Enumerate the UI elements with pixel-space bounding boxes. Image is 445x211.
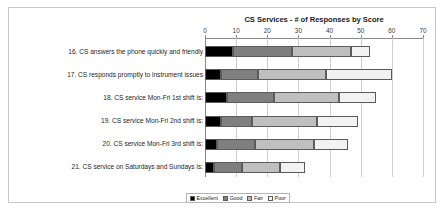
bar-segment-excellent[interactable] bbox=[205, 139, 217, 150]
legend-item[interactable]: Poor bbox=[268, 195, 286, 201]
category-label: 16. CS answers the phone quickly and fri… bbox=[18, 48, 203, 55]
bar-segment-excellent[interactable] bbox=[205, 69, 221, 80]
bar-segment-poor[interactable] bbox=[280, 162, 305, 173]
bar-segment-fair[interactable] bbox=[274, 92, 339, 103]
legend-item[interactable]: Excellent bbox=[190, 195, 218, 201]
bar-segment-good[interactable] bbox=[233, 46, 292, 57]
gridline-50 bbox=[361, 38, 362, 177]
bar-segment-fair[interactable] bbox=[292, 46, 351, 57]
x-axis-tick-label: 70 bbox=[419, 27, 426, 34]
tick-mark-70 bbox=[423, 35, 424, 38]
chart-title: CS Services - # of Responses by Score bbox=[199, 15, 429, 24]
tick-mark-10 bbox=[236, 35, 237, 38]
bar-segment-fair[interactable] bbox=[258, 69, 327, 80]
bar-segment-good[interactable] bbox=[217, 139, 254, 150]
tick-mark-40 bbox=[330, 35, 331, 38]
tick-mark-50 bbox=[361, 35, 362, 38]
gridline-0 bbox=[205, 38, 206, 177]
bar-row[interactable] bbox=[205, 92, 423, 103]
chart-container: CS Services - # of Responses by Score 16… bbox=[8, 7, 436, 203]
x-axis-tick-label: 60 bbox=[388, 27, 395, 34]
category-label: 20. CS service Mon-Fri 3rd shift is: bbox=[18, 140, 203, 147]
tick-mark-60 bbox=[392, 35, 393, 38]
bar-segment-good[interactable] bbox=[221, 116, 252, 127]
category-label: 17. CS responds promptly to instrument i… bbox=[18, 71, 203, 78]
legend-swatch-icon bbox=[268, 196, 273, 201]
legend-swatch-icon bbox=[223, 196, 228, 201]
legend-label: Fair bbox=[254, 195, 263, 201]
x-axis-tick-label: 0 bbox=[203, 27, 207, 34]
bar-segment-good[interactable] bbox=[221, 69, 258, 80]
bar-segment-excellent[interactable] bbox=[205, 162, 214, 173]
legend-swatch-icon bbox=[247, 196, 252, 201]
x-axis-tick-label: 40 bbox=[326, 27, 333, 34]
gridline-70 bbox=[423, 38, 424, 177]
legend-item[interactable]: Good bbox=[223, 195, 242, 201]
bar-segment-excellent[interactable] bbox=[205, 46, 233, 57]
x-axis-tick-label: 10 bbox=[233, 27, 240, 34]
category-label: 18. CS service Mon-Fri 1st shift is: bbox=[18, 94, 203, 101]
x-axis-tick-label: 30 bbox=[295, 27, 302, 34]
chart-legend: ExcellentGoodFairPoor bbox=[186, 193, 290, 203]
category-label: 19. CS service Mon-Fri 2nd shift is: bbox=[18, 117, 203, 124]
bar-segment-fair[interactable] bbox=[255, 139, 314, 150]
bar-segment-good[interactable] bbox=[227, 92, 274, 103]
gridline-40 bbox=[330, 38, 331, 177]
bar-row[interactable] bbox=[205, 139, 423, 150]
bar-segment-fair[interactable] bbox=[242, 162, 279, 173]
x-axis-tick-label: 20 bbox=[264, 27, 271, 34]
gridline-30 bbox=[298, 38, 299, 177]
bar-segment-excellent[interactable] bbox=[205, 92, 227, 103]
bar-segment-good[interactable] bbox=[214, 162, 242, 173]
bar-row[interactable] bbox=[205, 69, 423, 80]
bar-segment-poor[interactable] bbox=[339, 92, 376, 103]
category-label: 21. CS service on Saturdays and Sundays … bbox=[18, 163, 203, 170]
bar-segment-fair[interactable] bbox=[252, 116, 317, 127]
plot-area: 010203040506070 bbox=[205, 38, 423, 177]
bar-row[interactable] bbox=[205, 116, 423, 127]
bar-segment-poor[interactable] bbox=[326, 69, 391, 80]
tick-mark-30 bbox=[298, 35, 299, 38]
legend-label: Excellent bbox=[197, 195, 219, 201]
tick-mark-0 bbox=[205, 35, 206, 38]
gridline-60 bbox=[392, 38, 393, 177]
gridline-10 bbox=[236, 38, 237, 177]
category-axis-labels: 16. CS answers the phone quickly and fri… bbox=[15, 38, 203, 177]
bar-row[interactable] bbox=[205, 162, 423, 173]
bar-segment-poor[interactable] bbox=[317, 116, 357, 127]
bar-segment-poor[interactable] bbox=[314, 139, 348, 150]
bar-segment-poor[interactable] bbox=[351, 46, 370, 57]
bar-row[interactable] bbox=[205, 46, 423, 57]
legend-label: Poor bbox=[275, 195, 286, 201]
bar-segment-excellent[interactable] bbox=[205, 116, 221, 127]
legend-swatch-icon bbox=[190, 196, 195, 201]
x-axis-line bbox=[205, 38, 423, 39]
x-axis-tick-label: 50 bbox=[357, 27, 364, 34]
legend-item[interactable]: Fair bbox=[247, 195, 263, 201]
gridline-20 bbox=[267, 38, 268, 177]
legend-label: Good bbox=[230, 195, 243, 201]
tick-mark-20 bbox=[267, 35, 268, 38]
